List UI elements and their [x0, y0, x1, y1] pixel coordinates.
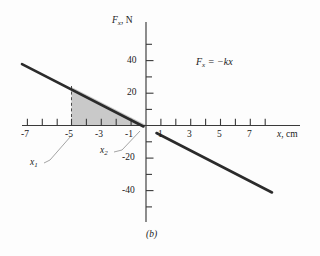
figure-panel-b: Fx, N x, cm -7 -5 -3 -1 1 3 5 7 40 20 -2… — [0, 0, 320, 256]
x-axis-unit: , cm — [281, 129, 297, 139]
y-axis-title: Fx, N — [112, 16, 133, 27]
y-axis-unit: , N — [121, 15, 133, 25]
x-axis-title: x, cm — [277, 130, 298, 140]
equation-body: = −kx — [205, 56, 232, 67]
x-tick-label-3: 3 — [187, 130, 192, 140]
y-tick-label-minus20: -20 — [122, 153, 135, 163]
x-tick-label-minus7: -7 — [21, 130, 29, 140]
x1-leader-line — [44, 136, 71, 163]
y-tick-label-minus40: -40 — [122, 186, 135, 196]
x-tick-label-1: 1 — [158, 130, 163, 140]
figure-caption: (b) — [146, 230, 157, 240]
x-tick-label-minus5: -5 — [65, 130, 73, 140]
x-tick-label-5: 5 — [217, 130, 222, 140]
force-line-right-segment — [157, 133, 273, 193]
equation-annotation: Fx = −kx — [196, 57, 233, 69]
x-tick-label-minus1: -1 — [125, 130, 133, 140]
x2-label: x2 — [100, 146, 108, 157]
x1-label: x1 — [30, 158, 38, 169]
x1-subscript: 1 — [34, 161, 38, 169]
y-tick-label-20: 20 — [127, 88, 137, 98]
x-tick-label-minus3: -3 — [95, 130, 103, 140]
force-vs-displacement-plot — [0, 0, 320, 256]
x-tick-label-7: 7 — [247, 130, 252, 140]
y-tick-label-40: 40 — [127, 56, 137, 66]
x2-subscript: 2 — [104, 149, 108, 157]
